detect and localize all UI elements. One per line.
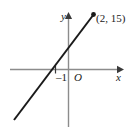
- line-graph-figure: y x O –1 (2, 15): [0, 0, 133, 127]
- x-axis-label: x: [116, 72, 121, 83]
- origin-label: O: [74, 72, 82, 83]
- point-coordinate-label: (2, 15): [96, 13, 125, 24]
- plotted-line: [14, 14, 94, 120]
- x-intercept-label: –1: [56, 72, 67, 83]
- y-axis-label: y: [61, 11, 66, 22]
